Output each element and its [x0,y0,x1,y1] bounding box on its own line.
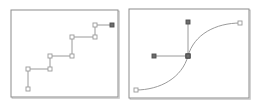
figure-root [0,0,259,108]
panel-border-left [11,10,118,97]
node-end[interactable] [110,23,114,27]
node-corner-7[interactable] [93,23,97,27]
vertical-tangent-handle-endpoint[interactable] [186,20,190,24]
node-corner-3[interactable] [48,54,52,58]
node-corner-1[interactable] [26,67,30,71]
center-anchor-node[interactable] [186,54,190,58]
node-corner-2[interactable] [48,67,52,71]
node-corner-5[interactable] [70,35,74,39]
upper-right-curve-end-node[interactable] [238,21,242,25]
bezier-curve-canvas[interactable] [128,8,251,100]
step-path-panel[interactable] [10,9,120,99]
bezier-curve-panel[interactable] [128,8,251,100]
node-corner-4[interactable] [70,54,74,58]
lower-left-curve-start-node[interactable] [134,88,138,92]
step-path-canvas[interactable] [10,9,120,99]
node-start[interactable] [26,87,30,91]
horizontal-tangent-handle-endpoint[interactable] [152,54,156,58]
node-corner-6[interactable] [93,35,97,39]
